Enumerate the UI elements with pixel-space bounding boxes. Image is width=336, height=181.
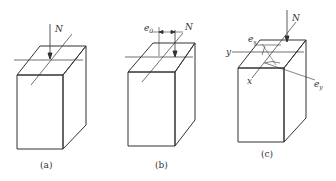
force-label-b: N xyxy=(184,22,194,32)
caption-a: (a) xyxy=(40,160,52,170)
panel-a-column xyxy=(14,24,86,149)
caption-b: (b) xyxy=(155,160,168,170)
panel-c-column xyxy=(232,10,315,142)
axis-label-y: y xyxy=(225,47,232,57)
panel-b-column xyxy=(125,27,195,146)
axis-label-x: x xyxy=(247,76,252,86)
caption-c: (c) xyxy=(261,149,273,159)
force-label-a: N xyxy=(54,24,64,34)
eccentricity-label-ey: ey xyxy=(314,79,323,91)
eccentricity-label-e0: e0 xyxy=(144,23,153,34)
column-loading-diagram: N (a) N e0 (b) N ex y x ey (c) xyxy=(0,0,336,181)
force-label-c: N xyxy=(291,13,301,23)
eccentricity-label-ex: ex xyxy=(248,34,257,45)
